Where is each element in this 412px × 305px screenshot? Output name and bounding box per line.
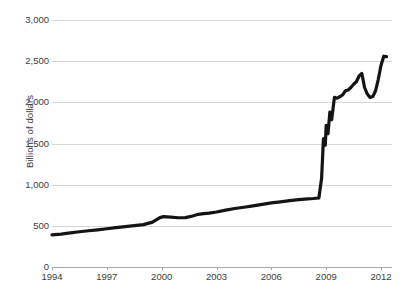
x-axis-tick-label: 1997 (77, 272, 137, 282)
y-axis-tick-label: 3,000 (3, 15, 49, 25)
x-axis-tick-label: 2000 (132, 272, 192, 282)
line-series (52, 20, 392, 267)
x-axis-tick-mark (162, 267, 163, 270)
x-axis-tick-mark (326, 267, 327, 270)
x-axis-tick-mark (52, 267, 53, 270)
x-axis-tick-mark (271, 267, 272, 270)
x-axis-tick-label: 2012 (351, 272, 411, 282)
y-axis-tick-label: 1,500 (3, 139, 49, 149)
plot-area (52, 20, 392, 267)
gridline (52, 267, 392, 268)
x-axis-tick-mark (107, 267, 108, 270)
x-axis-tick-mark (381, 267, 382, 270)
y-axis-tick-label: 500 (3, 221, 49, 231)
y-axis-tick-label: 2,500 (3, 56, 49, 66)
x-axis-tick-label: 2009 (296, 272, 356, 282)
y-axis-tick-labels: 05001,0001,5002,0002,5003,000 (0, 20, 49, 267)
x-axis-tick-label: 2006 (241, 272, 301, 282)
series-line (52, 56, 387, 235)
y-axis-tick-label: 2,000 (3, 97, 49, 107)
x-axis-tick-mark (217, 267, 218, 270)
x-axis-tick-label: 1994 (22, 272, 82, 282)
y-axis-tick-label: 1,000 (3, 180, 49, 190)
x-axis-tick-label: 2003 (187, 272, 247, 282)
chart-container: Billions of dollars 05001,0001,5002,0002… (0, 0, 412, 305)
